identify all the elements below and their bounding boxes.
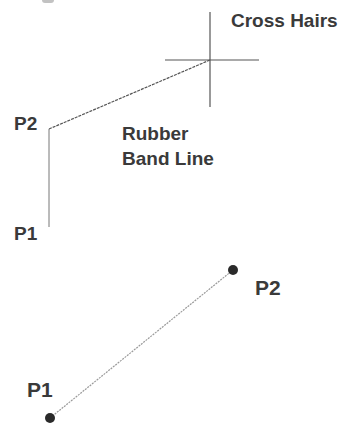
- rubber-band-line: [49, 60, 210, 129]
- p2-point-marker-icon: [228, 265, 238, 275]
- diagram-canvas: [0, 0, 360, 432]
- rubber-band-label-line2: Band Line: [122, 146, 214, 171]
- p1-point-marker-icon: [45, 413, 55, 423]
- rubber-band-label-line1: Rubber: [122, 121, 214, 146]
- final-line: [50, 270, 233, 418]
- bottom-p2-label: P2: [255, 277, 281, 298]
- crosshairs-label: Cross Hairs: [231, 11, 338, 30]
- bottom-p1-label: P1: [27, 379, 53, 400]
- rubber-band-label: Rubber Band Line: [122, 121, 214, 171]
- top-p2-label: P2: [14, 114, 37, 133]
- top-p1-label: P1: [14, 224, 37, 243]
